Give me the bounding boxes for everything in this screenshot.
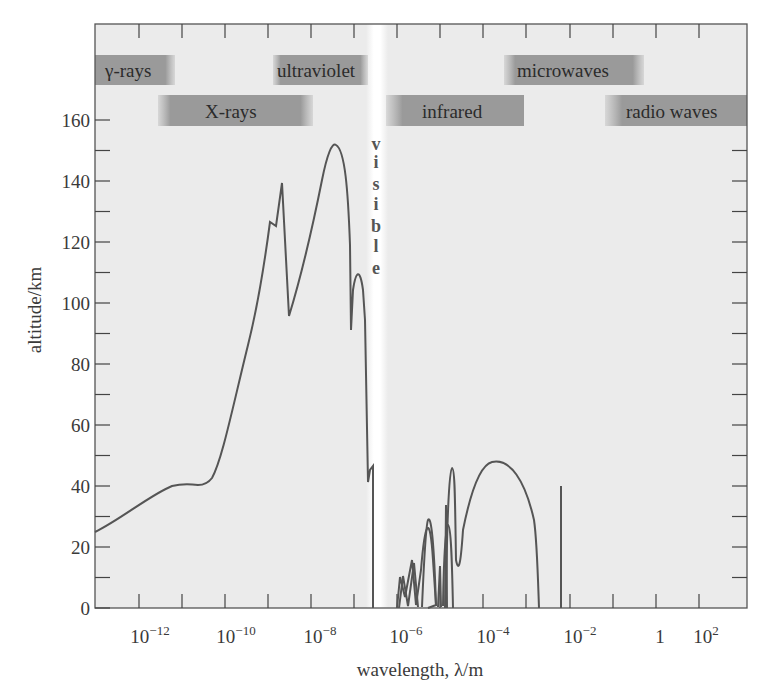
svg-text:l: l [373,236,378,256]
svg-text:40: 40 [71,476,90,497]
band-gamma-rays: γ-rays [95,55,175,85]
svg-text:0: 0 [81,598,91,619]
svg-text:20: 20 [71,537,90,558]
svg-text:10−4: 10−4 [477,623,510,647]
band-label-microwaves: microwaves [517,60,609,81]
svg-text:10−6: 10−6 [390,623,423,647]
svg-text:i: i [373,152,378,172]
absorption-chart: γ-rays ultraviolet microwaves X-rays inf… [0,0,762,692]
band-radio-waves: radio waves [605,95,747,126]
svg-text:60: 60 [71,415,90,436]
band-label-radio-waves: radio waves [626,101,717,122]
svg-text:160: 160 [62,110,91,131]
band-label-gamma-rays: γ-rays [104,60,151,81]
y-axis-title: altitude/km [24,267,45,354]
svg-text:80: 80 [71,354,90,375]
svg-text:120: 120 [62,232,91,253]
band-label-ultraviolet: ultraviolet [277,60,356,81]
svg-text:10−10: 10−10 [216,623,255,647]
svg-text:100: 100 [62,293,91,314]
svg-text:140: 140 [62,171,91,192]
svg-text:e: e [372,258,380,278]
band-infrared: infrared [386,95,524,126]
band-x-rays: X-rays [158,95,313,126]
x-tick-labels: 10−12 10−10 10−8 10−6 10−4 10−2 1 102 [130,623,718,647]
band-ultraviolet: ultraviolet [273,55,368,85]
y-tick-labels: 0 20 40 60 80 100 120 140 160 [62,110,91,619]
svg-text:i: i [373,194,378,214]
svg-text:10−12: 10−12 [130,623,169,647]
band-label-x-rays: X-rays [205,101,257,122]
svg-text:10−8: 10−8 [304,623,337,647]
svg-text:s: s [372,174,379,194]
svg-text:b: b [371,216,381,236]
svg-text:10−2: 10−2 [564,623,597,647]
x-axis-title: wavelength, λ/m [357,659,484,680]
band-microwaves: microwaves [504,55,644,85]
band-label-infrared: infrared [422,101,483,122]
svg-text:v: v [372,134,381,154]
svg-text:102: 102 [693,623,719,647]
visible-band [366,24,388,608]
svg-text:1: 1 [655,626,665,647]
